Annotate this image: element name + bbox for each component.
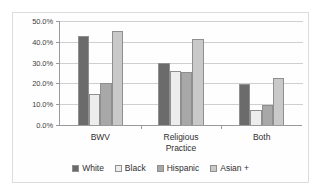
bar <box>170 71 181 125</box>
legend-item[interactable]: Black <box>115 163 146 173</box>
y-axis-tick <box>56 63 60 64</box>
bar <box>181 72 192 125</box>
x-axis-tick <box>221 125 222 129</box>
y-axis-label: 0.0% <box>36 121 53 130</box>
legend-swatch-icon <box>210 165 217 172</box>
bar <box>250 110 261 125</box>
y-axis-label: 40.0% <box>32 37 53 46</box>
legend-item-label: Hispanic <box>167 163 200 173</box>
bar-group: BWV <box>78 21 123 125</box>
x-axis-tick <box>141 125 142 129</box>
bar-group-bars <box>158 21 203 125</box>
chart-frame: 0.0%10.0%20.0%30.0%40.0%50.0%BWVReligiou… <box>12 12 309 183</box>
x-axis-label: BWV <box>91 132 110 143</box>
bar-group: Religious Practice <box>158 21 203 125</box>
chart-legend: WhiteBlackHispanicAsian + <box>13 163 308 173</box>
x-axis-label: Both <box>253 132 271 143</box>
y-axis-tick <box>56 83 60 84</box>
y-axis-label: 10.0% <box>32 100 53 109</box>
y-axis-label: 30.0% <box>32 58 53 67</box>
bar <box>89 94 100 125</box>
legend-swatch-icon <box>115 165 122 172</box>
legend-item[interactable]: Hispanic <box>157 163 200 173</box>
plot-area: 0.0%10.0%20.0%30.0%40.0%50.0%BWVReligiou… <box>59 21 302 126</box>
bar <box>78 36 89 125</box>
bar <box>192 39 203 125</box>
bar-group: Both <box>239 21 284 125</box>
y-axis-label: 50.0% <box>32 17 53 26</box>
bar <box>112 31 123 125</box>
bar <box>158 63 169 125</box>
bar <box>100 83 111 125</box>
y-axis-tick <box>56 42 60 43</box>
legend-item[interactable]: Asian + <box>210 163 249 173</box>
legend-item-label: Asian + <box>220 163 249 173</box>
bar <box>239 84 250 125</box>
bar <box>262 105 273 125</box>
legend-swatch-icon <box>72 165 79 172</box>
legend-item[interactable]: White <box>72 163 104 173</box>
legend-item-label: Black <box>125 163 146 173</box>
y-axis-tick <box>56 21 60 22</box>
y-axis-tick <box>56 125 60 126</box>
y-axis-label: 20.0% <box>32 79 53 88</box>
legend-item-label: White <box>82 163 104 173</box>
legend-swatch-icon <box>157 165 164 172</box>
bar-group-bars <box>239 21 284 125</box>
y-axis-tick <box>56 104 60 105</box>
bar <box>273 78 284 125</box>
bar-group-bars <box>78 21 123 125</box>
x-axis-label: Religious Practice <box>164 132 199 154</box>
